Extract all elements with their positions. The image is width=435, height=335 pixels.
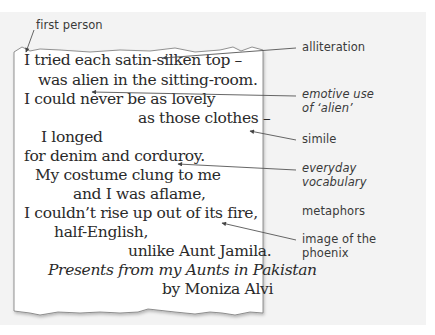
arrow-simile [250, 131, 296, 140]
arrow-first-person [26, 30, 34, 52]
arrow-emotive [92, 92, 296, 96]
annotation-arrows [0, 0, 435, 335]
arrow-alliteration [163, 48, 296, 58]
arrow-everyday [178, 164, 296, 170]
arrow-phoenix [222, 223, 296, 240]
